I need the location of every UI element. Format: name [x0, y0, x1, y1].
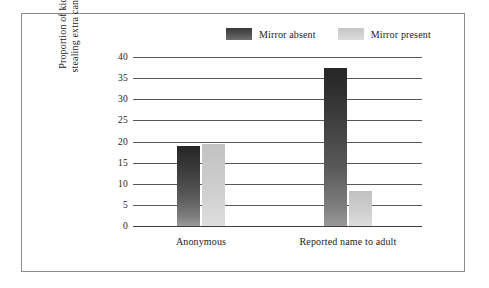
y-tick-label-5: 5 — [98, 200, 128, 210]
chart-figure: Mirror absent Mirror present Proportion … — [0, 0, 489, 288]
chart-legend: Mirror absent Mirror present — [226, 28, 431, 40]
x-axis-label-anonymous: Anonymous — [176, 236, 226, 247]
bar-anonymous-mirror-present — [202, 144, 225, 226]
gridline-20 — [133, 142, 422, 143]
y-tick-label-20: 20 — [98, 137, 128, 147]
y-tick-label-15: 15 — [98, 158, 128, 168]
gridline-30 — [133, 99, 422, 100]
legend-label-mirror-absent: Mirror absent — [259, 29, 316, 40]
y-axis-label: Proportion of kids stealing extra candy — [57, 0, 81, 86]
y-axis-label-line-1: Proportion of kids — [57, 0, 69, 86]
legend-swatch-icon-mirror-present — [338, 28, 364, 40]
legend-label-mirror-present: Mirror present — [371, 29, 431, 40]
gridline-35 — [133, 78, 422, 79]
y-tick-label-25: 25 — [98, 115, 128, 125]
bar-reported-name-to-adult-mirror-absent — [324, 68, 347, 226]
y-tick-label-40: 40 — [98, 52, 128, 62]
y-tick-label-10: 10 — [98, 179, 128, 189]
legend-swatch-icon-mirror-absent — [226, 28, 252, 40]
y-tick-label-0: 0 — [98, 221, 128, 231]
legend-entry-mirror-present: Mirror present — [338, 28, 431, 40]
bar-reported-name-to-adult-mirror-present — [349, 191, 372, 226]
gridline-25 — [133, 120, 422, 121]
y-tick-label-35: 35 — [98, 73, 128, 83]
legend-entry-mirror-absent: Mirror absent — [226, 28, 316, 40]
y-tick-label-30: 30 — [98, 94, 128, 104]
gridline-40 — [133, 57, 422, 58]
plot-area: 0510152025303540 — [133, 57, 422, 226]
bar-anonymous-mirror-absent — [177, 146, 200, 226]
x-axis-label-reported-name-to-adult: Reported name to adult — [300, 236, 397, 247]
y-axis-label-line-2: stealing extra candy — [69, 0, 81, 86]
gridline-0 — [133, 226, 422, 227]
